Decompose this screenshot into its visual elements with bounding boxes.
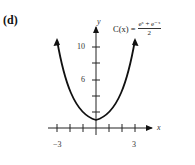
- formula-denominator: 2: [148, 29, 152, 37]
- y-tick-label-10: 10: [77, 42, 85, 51]
- formula-numerator: eˣ + e⁻ˣ: [138, 20, 162, 29]
- y-tick-label-6: 6: [81, 75, 85, 84]
- formula-fraction: eˣ + e⁻ˣ 2: [138, 20, 162, 37]
- formula: C(x) = eˣ + e⁻ˣ 2: [113, 20, 161, 37]
- formula-lhs: C(x) =: [113, 24, 136, 34]
- x-axis-label: x: [157, 123, 161, 132]
- y-axis-label: y: [97, 17, 101, 26]
- x-tick-label-neg3: −3: [53, 140, 62, 149]
- curve-arrow-right: [132, 38, 139, 46]
- x-tick-label-3: 3: [132, 140, 136, 149]
- curve-arrow-left: [54, 38, 61, 46]
